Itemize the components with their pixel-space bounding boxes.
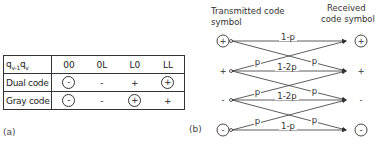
label-mid1: 1-2p [277, 62, 296, 72]
right-title-2: code symbol [321, 14, 375, 24]
right-sym-2: - [359, 95, 362, 105]
label-p: p [255, 87, 260, 97]
label-top: 1-p [281, 32, 295, 42]
right-title-1: Received [327, 3, 366, 13]
right-sym-3: - [359, 125, 362, 135]
left-title-1: Transmitted code [210, 6, 285, 16]
label-p: p [312, 115, 317, 125]
channel-diagram: Transmitted code symbol Received code sy… [0, 0, 376, 147]
label-p: p [255, 116, 260, 126]
left-sym-2: - [221, 95, 224, 105]
label-p: p [312, 86, 317, 96]
label-p: p [255, 57, 260, 67]
right-sym-1: + [357, 66, 364, 76]
left-sym-1: + [219, 66, 226, 76]
label-p: p [312, 56, 317, 66]
left-sym-3: - [221, 125, 224, 135]
label-mid2: 1-2p [277, 91, 296, 101]
label-bottom: 1-p [281, 121, 295, 131]
right-sym-0: + [357, 36, 364, 46]
left-sym-0: + [219, 36, 226, 46]
left-title-2: symbol [211, 17, 242, 27]
